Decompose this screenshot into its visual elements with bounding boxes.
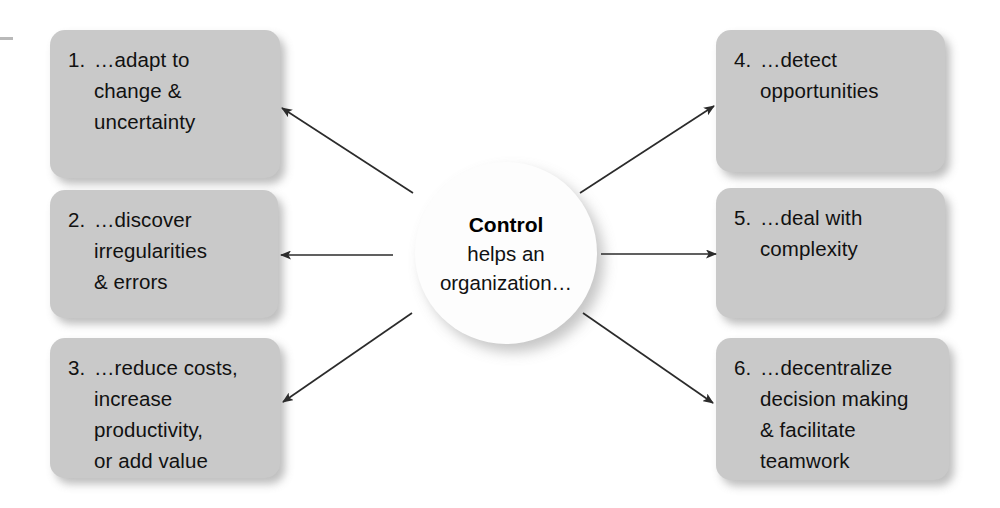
node-box-1-body: …adapt to change & uncertainty — [94, 44, 195, 137]
left-edge-tick-mark — [0, 37, 13, 40]
node-box-2: 2.…discover irregularities & errors — [50, 190, 278, 318]
center-circle-control: Control helps an organization… — [415, 162, 597, 344]
node-box-3: 3.…reduce costs, increase productivity, … — [50, 338, 280, 478]
node-box-2-number: 2. — [68, 204, 94, 235]
control-benefits-diagram: 1.…adapt to change & uncertainty 2.…disc… — [0, 0, 1000, 508]
node-box-6-body: …decentralize decision making & facilita… — [760, 352, 909, 476]
arrow-to-box-4 — [580, 106, 714, 193]
arrow-to-box-1 — [282, 108, 413, 193]
node-box-4: 4.…detect opportunities — [716, 30, 945, 172]
node-box-1-text: 1.…adapt to change & uncertainty — [50, 30, 207, 137]
node-box-5-text: 5.…deal with complexity — [716, 188, 874, 264]
node-box-3-body: …reduce costs, increase productivity, or… — [94, 352, 238, 476]
node-box-6-number: 6. — [734, 352, 760, 383]
node-box-3-number: 3. — [68, 352, 94, 383]
node-box-6-text: 6.…decentralize decision making & facili… — [716, 338, 921, 476]
node-box-1-number: 1. — [68, 44, 94, 75]
node-box-6: 6.…decentralize decision making & facili… — [716, 338, 949, 480]
node-box-1: 1.…adapt to change & uncertainty — [50, 30, 280, 178]
center-subtitle: helps an organization… — [440, 239, 572, 297]
center-title: Control — [469, 210, 544, 239]
node-box-5: 5.…deal with complexity — [716, 188, 945, 318]
node-box-5-number: 5. — [734, 202, 760, 233]
node-box-4-body: …detect opportunities — [760, 44, 879, 106]
node-box-5-body: …deal with complexity — [760, 202, 862, 264]
arrow-to-box-3 — [283, 313, 412, 402]
node-box-4-text: 4.…detect opportunities — [716, 30, 891, 106]
arrow-to-box-6 — [583, 313, 713, 403]
node-box-3-text: 3.…reduce costs, increase productivity, … — [50, 338, 250, 476]
node-box-2-text: 2.…discover irregularities & errors — [50, 190, 219, 297]
node-box-4-number: 4. — [734, 44, 760, 75]
node-box-2-body: …discover irregularities & errors — [94, 204, 207, 297]
